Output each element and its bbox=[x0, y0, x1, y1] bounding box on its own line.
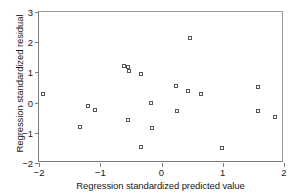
y-tick-label: 1 bbox=[28, 67, 33, 78]
x-tick-label: 2 bbox=[281, 167, 286, 178]
y-tick-mark bbox=[35, 72, 39, 73]
data-point bbox=[256, 109, 260, 113]
data-point bbox=[86, 104, 90, 108]
data-point bbox=[188, 36, 192, 40]
data-point bbox=[41, 92, 45, 96]
y-tick-label: 2 bbox=[28, 37, 33, 48]
data-point bbox=[139, 145, 143, 149]
data-point bbox=[126, 118, 130, 122]
y-tick-label: −1 bbox=[22, 127, 33, 138]
y-tick-label: 0 bbox=[28, 97, 33, 108]
scatter-chart: Regression standardized residual −2−1012… bbox=[0, 0, 292, 196]
x-tick-label: −2 bbox=[34, 167, 45, 178]
data-point bbox=[78, 125, 82, 129]
data-point bbox=[174, 84, 178, 88]
plot-area: −2−10123 −2−1012 bbox=[38, 11, 283, 162]
data-point bbox=[127, 69, 131, 73]
data-point bbox=[256, 85, 260, 89]
x-axis-title: Regression standardized predicted value bbox=[38, 180, 283, 191]
y-tick-mark bbox=[35, 133, 39, 134]
data-point bbox=[175, 109, 179, 113]
y-tick-label: −2 bbox=[22, 158, 33, 169]
y-tick-mark bbox=[35, 42, 39, 43]
y-tick-mark bbox=[35, 103, 39, 104]
x-tick-label: 0 bbox=[159, 167, 164, 178]
x-tick-label: 1 bbox=[220, 167, 225, 178]
y-axis-title: Regression standardized residual bbox=[14, 4, 25, 164]
data-point bbox=[220, 146, 224, 150]
y-tick-mark bbox=[35, 12, 39, 13]
data-point bbox=[150, 126, 154, 130]
data-point bbox=[273, 115, 277, 119]
data-point bbox=[139, 72, 143, 76]
data-point bbox=[186, 89, 190, 93]
x-tick-label: −1 bbox=[95, 167, 106, 178]
y-tick-label: 3 bbox=[28, 7, 33, 18]
data-point bbox=[93, 108, 97, 112]
data-point bbox=[149, 101, 153, 105]
data-point bbox=[199, 92, 203, 96]
